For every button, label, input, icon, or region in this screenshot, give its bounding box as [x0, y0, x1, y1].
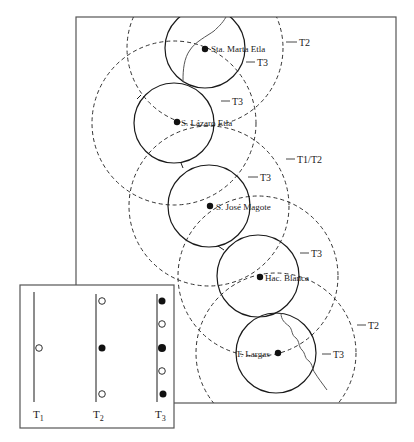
legend-dot-filled	[160, 391, 167, 398]
tier-label: T3	[232, 96, 243, 107]
tier-label: T2	[368, 320, 379, 331]
legend-dot-open	[36, 345, 43, 352]
tier-leaders	[221, 42, 366, 354]
legend-frame	[20, 285, 174, 428]
town-dot-s-lazaro	[174, 119, 180, 125]
legend-dot-open	[99, 391, 106, 398]
tier-label: T3	[260, 172, 271, 183]
tier-label: T3	[333, 349, 344, 360]
legend-dot-filled	[159, 298, 166, 305]
legend-dot-open	[159, 368, 166, 375]
legend-dot-open	[159, 321, 166, 328]
catchment-diagram: Sta. Marta Etla S. Lázaro Etla S. José M…	[0, 0, 414, 442]
tier-label: T2	[299, 37, 310, 48]
tier-label: T1/T2	[297, 154, 322, 165]
tier-label: T3	[311, 248, 322, 259]
legend-inset: T1 T2 T3	[20, 285, 174, 428]
tier-label: T3	[257, 57, 268, 68]
legend-dot-filled	[99, 345, 106, 352]
town-label-sta-marta: Sta. Marta Etla	[211, 44, 265, 54]
town-dot-hac-blanca	[257, 274, 263, 280]
town-dots	[174, 46, 281, 356]
legend-dot-open	[99, 298, 106, 305]
town-label-s-jose: S. José Magote	[216, 202, 271, 212]
town-dot-t-largas	[275, 350, 281, 356]
town-label-hac-blanca: Hac. Blanca	[265, 273, 309, 283]
town-dot-sta-marta	[202, 46, 208, 52]
town-label-s-lazaro: S. Lázaro Etla	[181, 118, 232, 128]
town-label-t-largas: T. Largas	[236, 349, 270, 359]
town-dot-s-jose	[207, 203, 213, 209]
legend-dot-filled	[158, 344, 166, 352]
